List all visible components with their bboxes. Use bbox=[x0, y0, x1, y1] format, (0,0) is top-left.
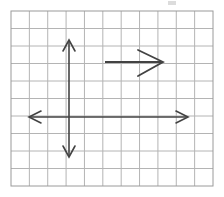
faint-scan-mark bbox=[168, 1, 176, 5]
figure-root bbox=[0, 0, 224, 197]
scan-artifact-layer bbox=[168, 1, 176, 5]
grid-layer bbox=[11, 11, 213, 186]
coordinate-grid-diagram bbox=[0, 0, 224, 197]
